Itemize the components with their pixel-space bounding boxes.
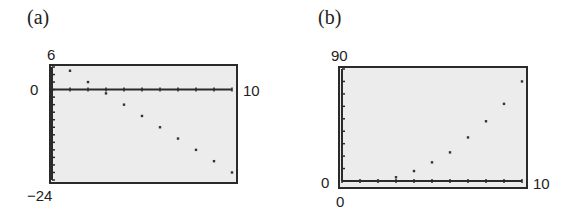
plots-canvas (0, 0, 575, 218)
data-point (521, 80, 523, 82)
data-point (213, 160, 215, 162)
plot-frame (50, 65, 237, 183)
data-point (485, 120, 487, 122)
data-point (69, 70, 71, 72)
data-point (467, 136, 469, 138)
data-point (413, 170, 415, 172)
data-point (159, 126, 161, 128)
data-point (123, 103, 125, 105)
data-point (231, 171, 233, 173)
data-point (177, 137, 179, 139)
data-point (395, 176, 397, 178)
data-point (195, 149, 197, 151)
data-point (503, 103, 505, 105)
data-point (141, 115, 143, 117)
data-point (431, 161, 433, 163)
scatter-plot-b (339, 67, 527, 188)
data-point (105, 92, 107, 94)
data-point (449, 151, 451, 153)
data-point (359, 180, 361, 182)
data-point (87, 81, 89, 83)
plot-frame (339, 67, 527, 188)
scatter-plot-a (50, 65, 237, 183)
data-point (377, 180, 379, 182)
